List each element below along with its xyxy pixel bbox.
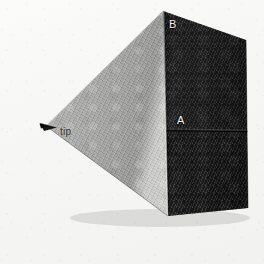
- slanted-top-face: [40, 5, 180, 225]
- front-lower-face: [160, 126, 255, 221]
- wedge-shape: [0, 0, 264, 264]
- contact-shadow: [70, 209, 250, 227]
- vertex-label-a: A: [177, 115, 185, 126]
- apex-label-tip: tip: [60, 127, 71, 137]
- wedge-photo: B A tip: [0, 0, 264, 264]
- mid-seam-line: [166, 131, 248, 132]
- vertex-label-b: B: [169, 19, 177, 30]
